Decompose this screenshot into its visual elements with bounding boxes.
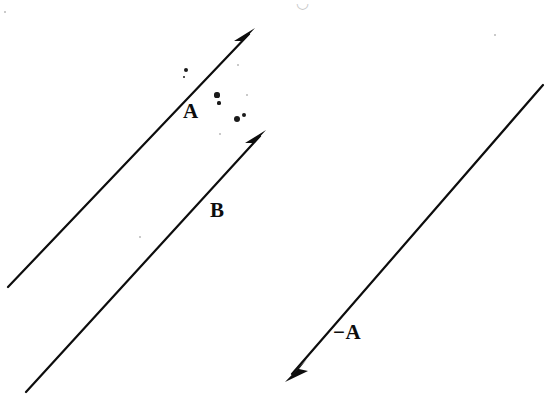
vector-a-arrowhead bbox=[234, 28, 255, 51]
vector-figure: A B −A ◡ bbox=[0, 0, 557, 404]
vector-arrow-negative-a bbox=[285, 85, 543, 382]
scan-artifact-glyph: ◡ bbox=[296, 0, 309, 12]
vector-b-shaft bbox=[26, 136, 260, 392]
vector-canvas bbox=[0, 0, 557, 404]
vector-arrow-a bbox=[8, 28, 255, 287]
vector-negative-a-shaft bbox=[292, 85, 543, 374]
vector-b-arrowhead bbox=[245, 130, 266, 153]
vector-negative-a-arrowhead bbox=[285, 359, 308, 382]
vector-label-a: A bbox=[183, 101, 198, 122]
scan-speck bbox=[242, 113, 246, 117]
scan-speck bbox=[217, 101, 220, 104]
scan-speck bbox=[214, 92, 219, 97]
vector-label-negative-a: −A bbox=[333, 322, 361, 343]
scan-speck bbox=[246, 94, 248, 96]
vector-arrow-b bbox=[26, 130, 266, 392]
vector-a-shaft bbox=[8, 34, 249, 287]
vector-label-b: B bbox=[210, 200, 224, 221]
